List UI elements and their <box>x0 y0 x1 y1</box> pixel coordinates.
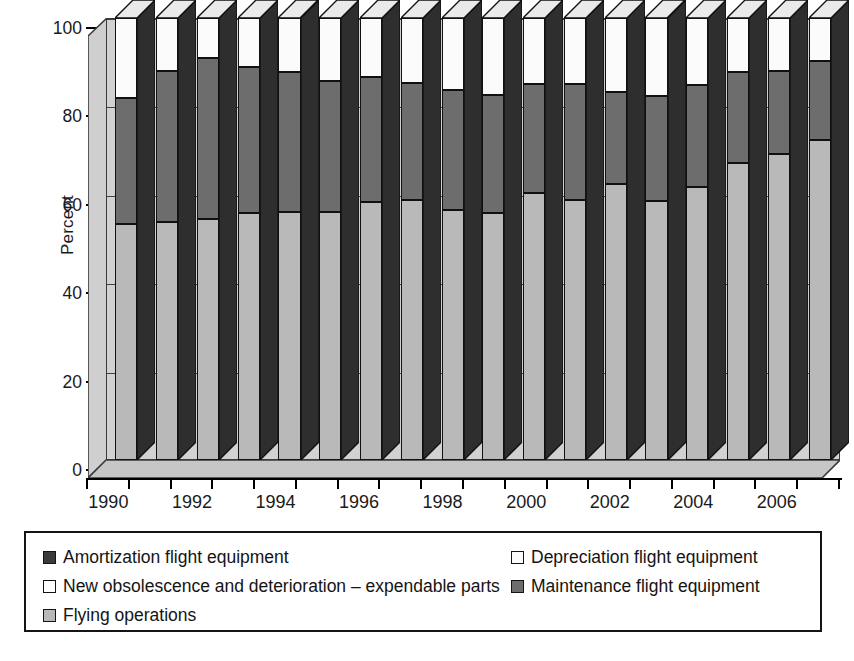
x-tick-mark <box>420 478 422 489</box>
bar-segment <box>727 72 749 163</box>
bar-segment <box>564 18 586 84</box>
figure-root: Percent 100 80 60 40 20 0 <box>0 0 854 661</box>
x-tick-mark <box>671 478 673 489</box>
y-tick-label: 40 <box>24 285 82 303</box>
bar-top-face <box>197 0 237 19</box>
bar-segment <box>401 83 423 199</box>
bar-1995 <box>319 18 341 460</box>
bar-segment <box>645 96 667 201</box>
bar-segment <box>645 18 667 96</box>
x-tick-mark <box>295 478 297 489</box>
bar-side-face <box>341 0 359 460</box>
bar-top-face <box>605 0 645 19</box>
x-tick-mark <box>170 478 172 489</box>
bar-top-face <box>401 0 441 19</box>
bar-side-face <box>749 0 767 460</box>
x-tick-mark <box>713 478 715 489</box>
y-tick-label: 0 <box>24 462 82 480</box>
x-axis-line <box>88 478 842 480</box>
x-tick-mark <box>337 478 339 489</box>
bar-segment <box>809 61 831 141</box>
bar-segment <box>523 84 545 193</box>
x-tick-mark <box>211 478 213 489</box>
bar-segment <box>686 85 708 187</box>
bar-side-face <box>423 0 441 460</box>
bar-segment <box>564 200 586 460</box>
bar-segment <box>401 200 423 460</box>
bar-segment <box>768 154 790 460</box>
bar-top-face <box>523 0 563 19</box>
legend-item-depreciation: Depreciation flight equipment <box>511 549 758 567</box>
x-tick-mark <box>629 478 631 489</box>
bar-segment <box>645 201 667 460</box>
x-tick-mark <box>587 478 589 489</box>
bar-1990 <box>115 18 137 460</box>
bar-top-face <box>564 0 604 19</box>
bar-2004 <box>686 18 708 460</box>
bar-segment <box>156 71 178 222</box>
y-axis-tick-labels: 100 80 60 40 20 0 <box>24 0 82 515</box>
bar-segment <box>278 212 300 460</box>
bar-side-face <box>301 0 319 460</box>
bar-segment <box>605 92 627 184</box>
bar-segment <box>156 18 178 71</box>
bar-segment <box>523 193 545 460</box>
legend-label: Flying operations <box>63 607 196 625</box>
x-tick-mark <box>754 478 756 489</box>
bar-segment <box>197 58 219 219</box>
legend-swatch-icon <box>511 551 524 564</box>
bar-side-face <box>178 0 196 460</box>
bar-segment <box>686 187 708 460</box>
bar-segment <box>115 224 137 460</box>
legend-label: Maintenance flight equipment <box>531 578 760 596</box>
bar-segment <box>278 18 300 72</box>
bar-segment <box>238 67 260 213</box>
x-tick-label: 1990 <box>78 492 138 513</box>
x-tick-mark <box>504 478 506 489</box>
bar-2000 <box>523 18 545 460</box>
bar-top-face <box>238 0 278 19</box>
y-tick-label: 20 <box>24 374 82 392</box>
bar-side-face <box>504 0 522 460</box>
legend-item-flying-operations: Flying operations <box>43 607 196 625</box>
bar-segment <box>523 18 545 84</box>
bar-top-face <box>442 0 482 19</box>
bar-segment <box>360 202 382 460</box>
x-tick-mark <box>378 478 380 489</box>
x-tick-label: 2004 <box>663 492 723 513</box>
bar-segment <box>401 18 423 83</box>
bar-segment <box>360 18 382 77</box>
legend-swatch-icon <box>43 609 56 622</box>
bar-side-face <box>831 0 849 460</box>
bar-1997 <box>401 18 423 460</box>
bar-side-face <box>464 0 482 460</box>
legend-swatch-icon <box>43 580 56 593</box>
bar-side-face <box>260 0 278 460</box>
legend-swatch-icon <box>511 580 524 593</box>
bar-side-face <box>219 0 237 460</box>
bar-segment <box>115 98 137 224</box>
legend-label: Amortization flight equipment <box>63 549 289 567</box>
x-tick-label: 2002 <box>580 492 640 513</box>
bar-top-face <box>645 0 685 19</box>
plot-box <box>88 18 840 478</box>
bar-2002 <box>605 18 627 460</box>
bar-segment <box>442 90 464 210</box>
bar-segment <box>482 18 504 95</box>
x-tick-label: 1996 <box>329 492 389 513</box>
bar-2003 <box>645 18 667 460</box>
bar-top-face <box>156 0 196 19</box>
plot-left-wall <box>88 18 107 478</box>
bar-top-face <box>727 0 767 19</box>
x-tick-mark <box>796 478 798 489</box>
bar-1992 <box>197 18 219 460</box>
x-tick-label: 1998 <box>413 492 473 513</box>
bar-top-face <box>686 0 726 19</box>
bar-top-face <box>768 0 808 19</box>
bar-top-face <box>319 0 359 19</box>
bar-side-face <box>586 0 604 460</box>
bar-2005 <box>727 18 749 460</box>
bar-1994 <box>278 18 300 460</box>
y-tick-label: 80 <box>24 108 82 126</box>
bar-segment <box>809 18 831 61</box>
